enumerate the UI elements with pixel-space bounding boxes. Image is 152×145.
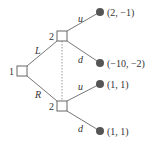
payoff-3: (1, 1): [107, 79, 129, 91]
game-tree: 1 2 2 L R u d u d (2, −1) (−10, −2) (1, …: [0, 0, 152, 145]
edge-lower-u: [67, 84, 100, 101]
edge-L: [27, 41, 57, 66]
terminal-node-1: [96, 8, 104, 16]
edge-lower-d: [67, 111, 100, 131]
action-label-lower-u: u: [78, 81, 83, 92]
payoff-1: (2, −1): [107, 7, 134, 19]
edge-R: [27, 76, 57, 101]
terminal-node-2: [96, 59, 104, 67]
action-label-upper-d: d: [78, 54, 84, 65]
root-node: [17, 66, 27, 76]
terminal-node-4: [96, 127, 104, 135]
lower-player-label: 2: [49, 101, 54, 112]
edge-upper-u: [67, 12, 100, 31]
action-label-upper-u: u: [78, 13, 83, 24]
payoff-2: (−10, −2): [107, 58, 145, 70]
edge-upper-d: [67, 41, 100, 63]
upper-player-label: 2: [49, 31, 54, 42]
terminal-node-3: [96, 80, 104, 88]
root-player-label: 1: [9, 66, 14, 77]
payoff-4: (1, 1): [107, 126, 129, 138]
action-label-lower-d: d: [78, 123, 84, 134]
upper-node: [57, 31, 67, 41]
action-label-L: L: [34, 45, 41, 56]
lower-node: [57, 101, 67, 111]
action-label-R: R: [34, 89, 41, 100]
